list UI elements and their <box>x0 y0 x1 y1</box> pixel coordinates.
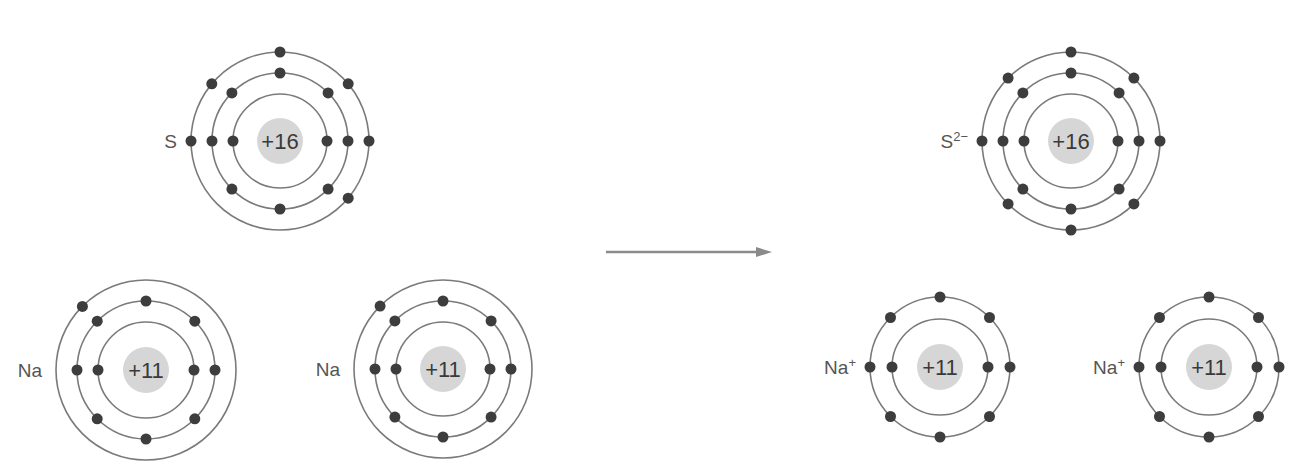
sodium-atom-1: +11Na <box>18 280 236 460</box>
electron-dot <box>486 315 497 326</box>
particle-label: Na <box>18 360 43 381</box>
electron-dot <box>391 364 402 375</box>
electron-dot <box>323 184 334 195</box>
electron-dot <box>189 316 200 327</box>
nucleus-charge: +16 <box>261 129 298 154</box>
electron-dot <box>389 412 400 423</box>
sulfide-ion: +16S2− <box>940 47 1165 236</box>
electron-dot <box>1134 136 1145 147</box>
electron-dot <box>1134 362 1145 373</box>
electron-dot <box>323 87 334 98</box>
electron-dot <box>1003 73 1014 84</box>
nucleus-charge: +11 <box>425 357 461 382</box>
particle-label: Na <box>316 359 341 380</box>
electron-dot <box>1066 204 1077 215</box>
electron-dot <box>189 413 200 424</box>
electron-dot <box>72 365 83 376</box>
electron-dot <box>506 364 517 375</box>
electron-dot <box>343 136 354 147</box>
ion-charge-superscript: + <box>848 355 856 370</box>
electron-dot <box>206 78 217 89</box>
electron-dot <box>1128 198 1139 209</box>
electron-dot <box>1017 87 1028 98</box>
electron-dot <box>93 365 104 376</box>
electron-dot <box>370 364 381 375</box>
element-symbol: S <box>940 131 953 152</box>
nucleus-charge: +11 <box>922 355 958 380</box>
electron-dot <box>1005 362 1016 373</box>
sodium-ion-2: +11Na+ <box>1093 292 1284 443</box>
electron-dot <box>984 411 995 422</box>
electron-dot <box>275 68 286 79</box>
nucleus-charge: +11 <box>128 358 164 383</box>
ion-charge-superscript: 2− <box>953 129 968 144</box>
electron-dot <box>486 412 497 423</box>
particle-label: Na+ <box>824 355 856 378</box>
electron-dot <box>1114 184 1125 195</box>
electron-dot <box>1066 47 1077 58</box>
electron-dot <box>1066 68 1077 79</box>
electron-dot <box>887 362 898 373</box>
electron-dot <box>226 87 237 98</box>
electron-dot <box>1253 312 1264 323</box>
element-symbol: Na <box>18 360 43 381</box>
reaction-arrow <box>606 247 772 257</box>
electron-dot <box>275 204 286 215</box>
particle-label: Na+ <box>1093 355 1125 378</box>
electron-dot <box>1154 411 1165 422</box>
electron-dot <box>935 432 946 443</box>
electron-dot <box>998 136 1009 147</box>
nucleus-charge: +16 <box>1052 129 1089 154</box>
electron-dot <box>322 136 333 147</box>
electron-dot <box>210 365 221 376</box>
electron-dot <box>1066 225 1077 236</box>
particle-label: S <box>164 131 177 152</box>
electron-dot <box>1019 136 1030 147</box>
element-symbol: Na <box>824 357 849 378</box>
particle-label: S2− <box>940 129 968 152</box>
electron-dot <box>141 296 152 307</box>
electron-dot <box>226 184 237 195</box>
electron-dot <box>977 136 988 147</box>
nucleus-charge: +11 <box>1191 355 1227 380</box>
electron-dot <box>1113 136 1124 147</box>
electron-dot <box>1003 198 1014 209</box>
electron-dot <box>77 301 88 312</box>
electron-dot <box>375 301 386 312</box>
electron-dot <box>1156 362 1167 373</box>
electron-dot <box>885 411 896 422</box>
element-symbol: S <box>164 131 177 152</box>
electron-dot <box>186 136 197 147</box>
electron-dot <box>984 312 995 323</box>
sodium-ion-1: +11Na+ <box>824 292 1015 443</box>
electron-dot <box>438 296 449 307</box>
electron-dot <box>92 316 103 327</box>
element-symbol: Na <box>1093 357 1118 378</box>
electron-dot <box>1253 411 1264 422</box>
electron-dot <box>1204 292 1215 303</box>
reactants-group: +16S+11Na+11Na <box>18 47 532 461</box>
electron-dot <box>1114 87 1125 98</box>
electron-dot <box>364 136 375 147</box>
ionic-bonding-diagram: +16S+11Na+11Na +16S2−+11Na++11Na+ <box>0 0 1313 475</box>
electron-dot <box>865 362 876 373</box>
electron-dot <box>1155 136 1166 147</box>
electron-dot <box>1154 312 1165 323</box>
electron-dot <box>935 292 946 303</box>
electron-dot <box>228 136 239 147</box>
electron-dot <box>343 78 354 89</box>
arrow-head-icon <box>756 247 772 257</box>
electron-dot <box>207 136 218 147</box>
electron-dot <box>1274 362 1285 373</box>
electron-dot <box>485 364 496 375</box>
electron-dot <box>885 312 896 323</box>
products-group: +16S2−+11Na++11Na+ <box>824 47 1284 443</box>
electron-dot <box>141 434 152 445</box>
electron-dot <box>92 413 103 424</box>
electron-dot <box>389 315 400 326</box>
sulfur-atom: +16S <box>164 47 374 231</box>
sodium-atom-2: +11Na <box>316 280 532 458</box>
electron-dot <box>1204 432 1215 443</box>
electron-dot <box>275 47 286 58</box>
ion-charge-superscript: + <box>1117 355 1125 370</box>
